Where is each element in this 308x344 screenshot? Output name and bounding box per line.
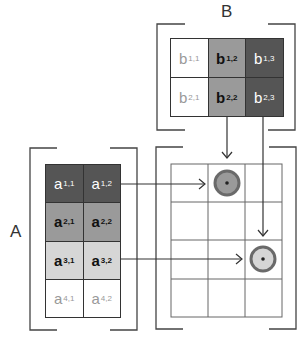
b-cell-1-1: b1,1 bbox=[170, 38, 209, 78]
a-cell-1-2: a1,2 bbox=[83, 164, 122, 203]
b-cell-1-3: b1,3 bbox=[245, 38, 284, 78]
b-cell-2-2: b2,2 bbox=[208, 77, 247, 117]
a-cell-3-2: a3,2 bbox=[83, 241, 122, 280]
a-cell-4-2: a4,2 bbox=[83, 279, 122, 318]
a-cell-1-1: a1,1 bbox=[45, 164, 84, 203]
b-cell-1-2: b1,2 bbox=[208, 38, 247, 78]
a-cell-3-1: a3,1 bbox=[45, 241, 84, 280]
a-cell-2-2: a2,2 bbox=[83, 202, 122, 241]
matrix-b-label: B bbox=[221, 2, 232, 22]
b-cell-2-1: b2,1 bbox=[170, 77, 209, 117]
a-cell-4-1: a4,1 bbox=[45, 279, 84, 318]
matrix-a-label: A bbox=[10, 222, 21, 242]
result-c12-marker bbox=[215, 171, 239, 195]
a-cell-2-1: a2,1 bbox=[45, 202, 84, 241]
b-cell-2-3: b2,3 bbox=[245, 77, 284, 117]
result-c33-marker bbox=[251, 247, 275, 271]
arrows bbox=[120, 116, 268, 264]
